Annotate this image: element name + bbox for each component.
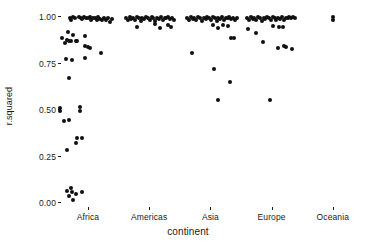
data-point [74, 141, 78, 145]
data-point [75, 136, 79, 140]
data-point [69, 39, 73, 43]
data-point [216, 98, 220, 102]
data-point [232, 36, 236, 40]
data-point [65, 148, 69, 152]
data-point [211, 23, 215, 27]
x-axis-tick-label-americas: Americas [114, 212, 184, 222]
x-axis-title: continent [0, 226, 376, 237]
data-point [74, 192, 78, 196]
data-point [66, 30, 70, 34]
data-point [226, 24, 230, 28]
data-point [135, 25, 139, 29]
x-axis-tick-mark [149, 207, 150, 210]
x-axis-tick-mark [333, 207, 334, 210]
data-point [110, 17, 114, 21]
data-point [268, 98, 272, 102]
data-point [228, 80, 232, 84]
data-point [99, 51, 103, 55]
data-point [221, 23, 225, 27]
data-point [212, 67, 216, 71]
data-point [284, 45, 288, 49]
data-point [88, 46, 92, 50]
data-point [67, 76, 71, 80]
data-point [158, 26, 162, 30]
plot-panel [0, 0, 376, 212]
data-point [80, 190, 84, 194]
data-point [271, 24, 275, 28]
data-point [83, 34, 87, 38]
data-point [64, 57, 68, 61]
data-point [153, 22, 157, 26]
data-point [254, 31, 258, 35]
data-point [331, 18, 335, 22]
data-point [246, 27, 250, 31]
x-axis-tick-mark [88, 207, 89, 210]
data-point [75, 39, 79, 43]
x-axis-tick-mark [272, 207, 273, 210]
data-point [276, 46, 280, 50]
data-point [290, 47, 294, 51]
data-point [80, 136, 84, 140]
data-point [235, 16, 239, 20]
x-axis-tick-mark [210, 207, 211, 210]
x-axis-tick-label-africa: Africa [53, 212, 123, 222]
data-point [190, 51, 194, 55]
data-point [73, 16, 77, 20]
data-point [281, 25, 285, 29]
data-point [169, 25, 173, 29]
data-point [62, 119, 66, 123]
data-point [65, 189, 69, 193]
data-point [261, 40, 265, 44]
data-point [67, 118, 71, 122]
x-axis-tick-label-europe: Europe [237, 212, 307, 222]
data-point [172, 18, 176, 22]
x-axis-tick-label-asia: Asia [175, 212, 245, 222]
data-point [71, 198, 75, 202]
data-point [70, 58, 74, 62]
data-point [83, 56, 87, 60]
data-point [60, 36, 64, 40]
data-point [71, 33, 75, 37]
data-point [293, 16, 297, 20]
data-point [78, 109, 82, 113]
data-point [58, 109, 62, 113]
scatter-plot: r.squared 0.000.250.500.751.00 AfricaAme… [0, 0, 376, 246]
data-point [216, 26, 220, 30]
x-axis-tick-label-oceania: Oceania [298, 212, 368, 222]
